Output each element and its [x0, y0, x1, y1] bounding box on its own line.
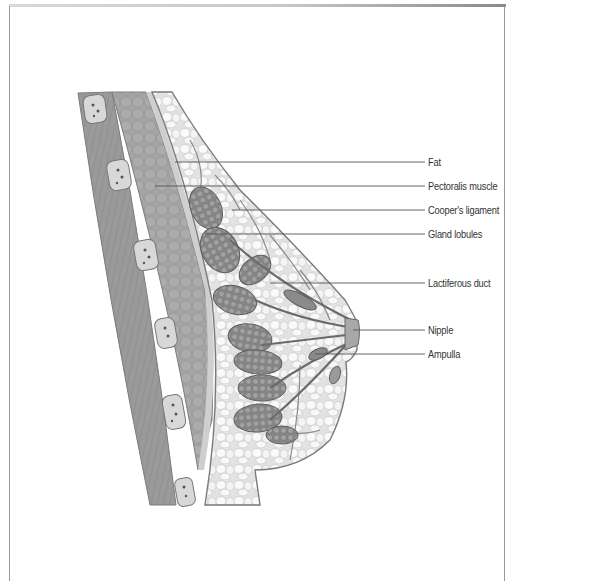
- nipple: [345, 318, 360, 350]
- label-gland-lobules: Gland lobules: [428, 228, 482, 240]
- label-nipple: Nipple: [428, 324, 453, 336]
- label-pectoralis-muscle: Pectoralis muscle: [428, 180, 497, 192]
- label-ampulla: Ampulla: [428, 348, 460, 360]
- label-coopers-ligament: Cooper's ligament: [428, 204, 499, 216]
- label-fat: Fat: [428, 156, 441, 168]
- label-lactiferous-duct: Lactiferous duct: [428, 277, 490, 289]
